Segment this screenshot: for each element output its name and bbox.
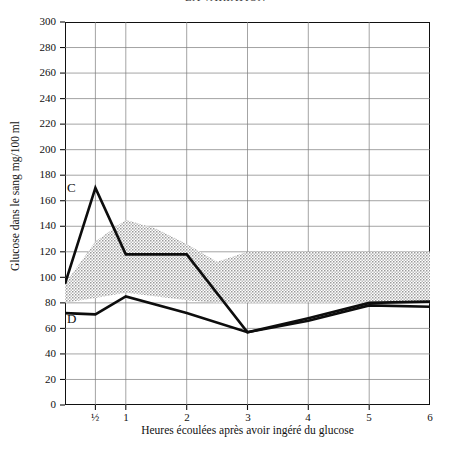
y-tick-label: 0 xyxy=(16,399,56,410)
y-tick-label: 40 xyxy=(16,348,56,359)
y-tick-label: 80 xyxy=(16,297,56,308)
x-tick-label: 3 xyxy=(233,412,263,423)
curve-label-d: D xyxy=(67,312,76,325)
y-tick-label: 240 xyxy=(16,93,56,104)
y-tick-label: 100 xyxy=(16,272,56,283)
y-tick-label: 180 xyxy=(16,169,56,180)
curve-label-c: C xyxy=(67,181,76,194)
y-tick-label: 300 xyxy=(16,16,56,27)
y-axis-title: Glucose dans le sang mg/100 ml xyxy=(9,31,21,361)
y-tick-label: 220 xyxy=(16,118,56,129)
x-tick-label: ½ xyxy=(80,412,110,423)
axis-ticks xyxy=(60,22,369,410)
y-tick-label: 20 xyxy=(16,374,56,385)
x-tick-label: 5 xyxy=(354,412,384,423)
y-tick-label: 200 xyxy=(16,144,56,155)
x-tick-label: 2 xyxy=(172,412,202,423)
y-tick-label: 280 xyxy=(16,42,56,53)
chart-canvas xyxy=(0,0,451,449)
x-tick-label: 4 xyxy=(293,412,323,423)
y-tick-label: 120 xyxy=(16,246,56,257)
chart-figure: LA VARIATION xyxy=(0,0,451,449)
y-tick-label: 140 xyxy=(16,220,56,231)
y-tick-label: 60 xyxy=(16,323,56,334)
x-axis-title: Heures écoulées après avoir ingéré du gl… xyxy=(65,424,430,436)
gridlines-vertical xyxy=(95,22,369,405)
x-tick-label: 1 xyxy=(111,412,141,423)
y-tick-label: 160 xyxy=(16,195,56,206)
y-tick-label: 260 xyxy=(16,67,56,78)
x-tick-label: 6 xyxy=(415,412,445,423)
